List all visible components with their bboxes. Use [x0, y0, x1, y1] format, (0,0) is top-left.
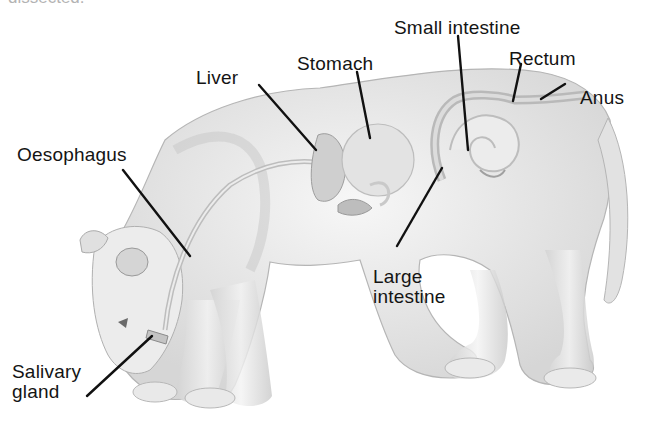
label-liver: Liver — [196, 68, 238, 88]
diagram-stage: dissected. — [0, 0, 651, 421]
label-salivary-gland-line1: Salivary — [12, 362, 81, 382]
label-stomach: Stomach — [297, 54, 373, 74]
label-small-intestine: Small intestine — [394, 18, 521, 38]
label-rectum: Rectum — [509, 49, 576, 69]
label-large-intestine-line1: Large — [373, 267, 423, 287]
body-silhouette — [80, 69, 628, 408]
label-salivary-gland-line2: gland — [12, 382, 60, 402]
label-large-intestine-line2: intestine — [373, 287, 446, 307]
label-anus: Anus — [580, 88, 624, 108]
stomach-organ — [342, 124, 414, 196]
label-oesophagus: Oesophagus — [17, 145, 127, 165]
